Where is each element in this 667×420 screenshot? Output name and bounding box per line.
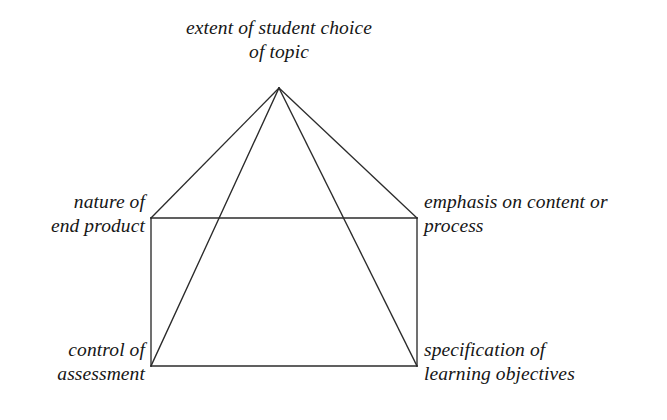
label-apex-extent-of-student-choice: extent of student choice of topic bbox=[0, 16, 558, 64]
edge-apex-to-mid-left bbox=[151, 88, 279, 218]
label-mid-left-line2: end product bbox=[0, 214, 145, 238]
label-mid-right-line1: emphasis on content or bbox=[424, 190, 608, 214]
edge-apex-to-bottom-right bbox=[279, 88, 417, 366]
label-bottom-left-line1: control of bbox=[0, 338, 145, 362]
label-control-of-assessment: control of assessment bbox=[0, 338, 145, 386]
label-emphasis-on-content-or-process: emphasis on content or process bbox=[424, 190, 608, 238]
label-bottom-left-line2: assessment bbox=[0, 362, 145, 386]
label-mid-right-line2: process bbox=[424, 214, 608, 238]
label-nature-of-end-product: nature of end product bbox=[0, 190, 145, 238]
label-bottom-right-line2: learning objectives bbox=[424, 362, 575, 386]
label-apex-line1: extent of student choice bbox=[0, 16, 558, 40]
edge-apex-to-bottom-left bbox=[151, 88, 279, 366]
label-specification-of-learning-objectives: specification of learning objectives bbox=[424, 338, 575, 386]
label-bottom-right-line1: specification of bbox=[424, 338, 575, 362]
diagram-page: { "diagram": { "title": "project work di… bbox=[0, 0, 667, 420]
edge-apex-to-mid-right bbox=[279, 88, 417, 218]
label-apex-line2: of topic bbox=[0, 40, 558, 64]
label-mid-left-line1: nature of bbox=[0, 190, 145, 214]
